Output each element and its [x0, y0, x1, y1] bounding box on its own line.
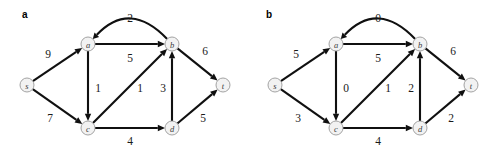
edge-line	[425, 94, 460, 123]
node-s: s	[268, 78, 282, 92]
edge-weight-b-t: 6	[450, 45, 456, 57]
edge-c-to-d	[343, 125, 413, 131]
edge-s-to-c	[281, 89, 331, 124]
edge-b-to-t	[425, 48, 465, 80]
edge-a-to-c	[333, 51, 339, 121]
edge-a-to-b	[343, 41, 413, 47]
edge-line	[281, 52, 324, 81]
arrow-head	[333, 114, 339, 121]
arrow-head	[406, 125, 413, 131]
arrow-head	[158, 125, 165, 131]
node-label: c	[334, 124, 338, 134]
edge-weight-a-b: 5	[127, 52, 133, 64]
edge-weight-c-d: 4	[127, 135, 133, 147]
graph-figure: a 9752114365sabcdt b 5350014262sabcdt	[0, 0, 496, 153]
edge-weight-d-t: 2	[448, 112, 454, 124]
edge-weight-s-c: 7	[47, 112, 53, 124]
node-a: a	[81, 37, 95, 51]
arrow-head	[85, 114, 91, 121]
edge-s-to-a	[33, 48, 82, 81]
edge-c-to-d	[95, 125, 165, 131]
node-b: b	[165, 37, 179, 51]
arrow-head	[169, 51, 175, 58]
node-c: c	[81, 121, 95, 135]
edge-d-to-b	[169, 51, 175, 121]
node-c: c	[329, 121, 343, 135]
panel-b: b 5350014262sabcdt	[248, 0, 496, 153]
edge-weight-c-b: 1	[385, 82, 391, 94]
node-b: b	[413, 37, 427, 51]
node-label: b	[170, 40, 174, 50]
edge-weight-b-t: 6	[202, 45, 208, 57]
edge-d-to-t	[425, 90, 465, 124]
panel-a: a 9752114365sabcdt	[0, 0, 248, 153]
panel-a-graph: 9752114365sabcdt	[0, 0, 248, 153]
edge-line	[33, 89, 77, 120]
edge-a-to-b	[95, 41, 165, 47]
node-t: t	[216, 78, 230, 92]
edge-weight-a-c: 0	[343, 82, 349, 94]
edge-line	[341, 54, 410, 123]
edge-d-to-t	[177, 90, 217, 124]
edge-weight-a-b: 5	[375, 52, 381, 64]
edge-line	[33, 52, 76, 81]
edge-line	[93, 54, 162, 123]
panel-b-graph: 5350014262sabcdt	[248, 0, 496, 153]
edge-weight-s-c: 3	[295, 112, 301, 124]
node-d: d	[165, 121, 179, 135]
edge-weight-b-a: 0	[375, 12, 381, 24]
edge-weight-c-b: 1	[137, 82, 143, 94]
node-a: a	[329, 37, 343, 51]
edge-weight-c-d: 4	[375, 135, 381, 147]
edge-weight-s-a: 5	[293, 48, 299, 60]
node-s: s	[20, 78, 34, 92]
edge-weight-d-b: 3	[160, 82, 166, 94]
node-label: c	[86, 124, 90, 134]
node-label: a	[86, 40, 90, 50]
edge-weight-d-t: 5	[200, 112, 206, 124]
edge-weight-s-a: 9	[45, 48, 51, 60]
edge-a-to-c	[85, 51, 91, 121]
node-t: t	[464, 78, 478, 92]
edge-s-to-a	[281, 48, 330, 81]
edge-weight-d-b: 2	[408, 82, 414, 94]
edge-weight-b-a: 2	[127, 12, 133, 24]
arrow-head	[417, 51, 423, 58]
edge-b-to-t	[177, 48, 217, 80]
edge-s-to-c	[33, 89, 83, 124]
node-d: d	[413, 121, 427, 135]
node-label: b	[418, 40, 422, 50]
edge-line	[281, 89, 325, 120]
node-label: a	[334, 40, 338, 50]
edge-weight-a-c: 1	[95, 82, 101, 94]
arrow-head	[158, 41, 165, 47]
edge-d-to-b	[417, 51, 423, 121]
edge-line	[177, 94, 212, 123]
arrow-head	[406, 41, 413, 47]
